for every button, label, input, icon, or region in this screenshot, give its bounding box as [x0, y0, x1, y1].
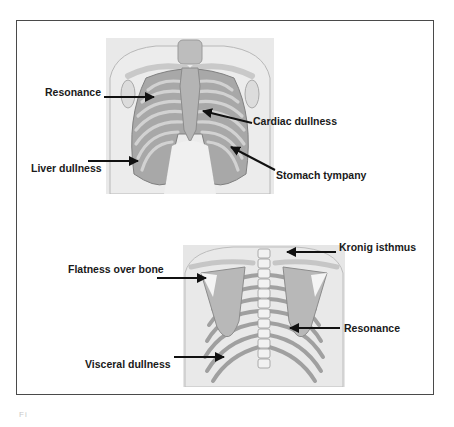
- label-visceral-dullness: Visceral dullness: [85, 358, 171, 370]
- label-liver-dullness: Liver dullness: [31, 162, 102, 174]
- label-flatness-over-bone: Flatness over bone: [68, 263, 164, 275]
- anterior-chest-illustration: [106, 38, 274, 194]
- label-cardiac-dullness: Cardiac dullness: [253, 115, 337, 127]
- figure-caption: Fi: [19, 410, 121, 419]
- label-kronig-isthmus: Kronig isthmus: [339, 241, 416, 253]
- label-resonance-back: Resonance: [344, 322, 400, 334]
- label-resonance-front: Resonance: [45, 86, 101, 98]
- label-stomach-tympany: Stomach tympany: [276, 169, 366, 181]
- posterior-back-illustration: [183, 245, 345, 387]
